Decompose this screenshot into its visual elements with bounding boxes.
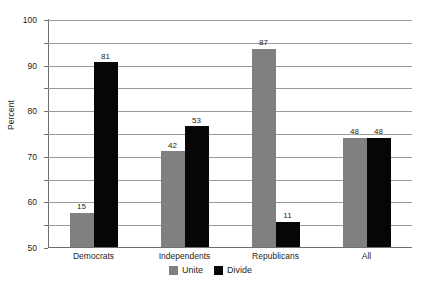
bar-unite-republicans: 87 <box>252 49 276 247</box>
y-axis-tick-label: 70 <box>28 153 37 162</box>
y-axis-tick-label: 50 <box>28 244 37 253</box>
bar-value-label: 42 <box>168 142 177 150</box>
bar-divide-independents: 53 <box>185 126 209 247</box>
x-axis-label-independents: Independents <box>159 252 211 261</box>
bar-value-label: 48 <box>374 128 383 136</box>
bar-value-label: 81 <box>101 53 110 61</box>
y-axis-tick: 90 <box>44 43 48 44</box>
gridline <box>48 20 412 21</box>
y-axis-tick-label: 60 <box>28 198 37 207</box>
x-axis-label-all: All <box>362 252 371 261</box>
x-axis-line <box>48 247 412 248</box>
bar-value-label: 48 <box>350 128 359 136</box>
bar-divide-democrats: 81 <box>94 62 118 247</box>
y-axis-tick: 80 <box>44 66 48 67</box>
y-axis-tick-label: 80 <box>28 107 37 116</box>
y-axis-tick: 30 <box>44 180 48 181</box>
gridline <box>48 43 412 44</box>
bar-divide-all: 48 <box>367 138 391 247</box>
y-axis-tick: 60 <box>44 111 48 112</box>
plot-area: 1009080706050403020100 1581425387114848 <box>48 20 412 248</box>
y-axis-title: Percent <box>6 85 16 145</box>
y-axis-tick: 10 <box>44 225 48 226</box>
y-axis-tick: 0 <box>44 248 48 249</box>
y-axis-tick: 40 <box>44 157 48 158</box>
legend-item-unite[interactable]: Unite <box>169 266 203 275</box>
bar-unite-independents: 42 <box>161 151 185 247</box>
bar-value-label: 87 <box>259 39 268 47</box>
x-axis-label-republicans: Republicans <box>252 252 299 261</box>
legend-label: Unite <box>182 266 203 275</box>
y-axis-tick: 70 <box>44 88 48 89</box>
chart-legend: UniteDivide <box>0 266 421 275</box>
x-axis-label-democrats: Democrats <box>73 252 114 261</box>
bar-chart: Percent 1009080706050403020100 158142538… <box>0 0 421 281</box>
legend-label: Divide <box>227 266 252 275</box>
y-axis-tick: 100 <box>44 20 48 21</box>
y-axis-tick: 50 <box>44 134 48 135</box>
bar-value-label: 15 <box>77 203 86 211</box>
y-axis-tick-label: 90 <box>28 61 37 70</box>
y-axis-tick: 20 <box>44 202 48 203</box>
bar-unite-all: 48 <box>343 138 367 247</box>
bar-divide-republicans: 11 <box>276 222 300 247</box>
black-swatch-icon <box>214 266 223 275</box>
bar-value-label: 53 <box>192 117 201 125</box>
legend-item-divide[interactable]: Divide <box>214 266 252 275</box>
bar-unite-democrats: 15 <box>70 213 94 247</box>
gray-swatch-icon <box>169 266 178 275</box>
y-axis-tick-label: 100 <box>23 16 37 25</box>
bar-value-label: 11 <box>283 212 291 220</box>
